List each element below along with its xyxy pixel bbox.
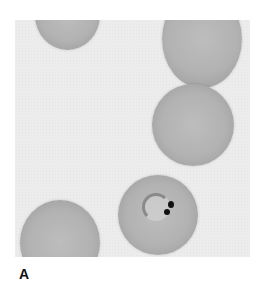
chromatin-dot-2 <box>164 209 170 215</box>
rbc-infected-bottom-center <box>118 175 198 255</box>
rbc-bottom-left-partial <box>20 200 100 257</box>
rbc-top-left-partial <box>35 20 100 50</box>
chromatin-dot-1 <box>168 201 174 208</box>
rbc-middle-right <box>152 84 234 166</box>
panel-label: A <box>19 266 29 282</box>
rbc-top-right-partial <box>162 20 242 88</box>
parasite-ring <box>142 193 170 221</box>
micrograph-panel <box>15 20 250 257</box>
